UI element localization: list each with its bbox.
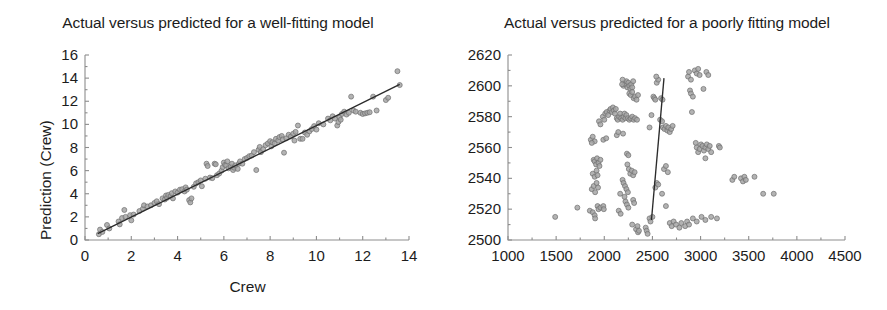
y-tick-label: 2520 — [468, 201, 501, 216]
data-point — [593, 190, 598, 195]
data-point — [314, 127, 319, 132]
data-point — [618, 191, 623, 196]
data-point — [205, 164, 210, 169]
data-point — [612, 111, 617, 116]
data-point — [300, 136, 305, 141]
data-point — [688, 77, 693, 82]
data-point — [653, 97, 658, 102]
data-point — [349, 94, 354, 99]
data-point — [743, 177, 748, 182]
data-point — [595, 173, 600, 178]
data-point — [594, 180, 599, 185]
figure-container: Actual versus predicted for a well-fitti… — [0, 0, 887, 310]
data-point — [575, 205, 580, 210]
data-point — [604, 136, 609, 141]
scatter-points — [553, 66, 777, 236]
data-point — [602, 117, 607, 122]
data-point — [625, 162, 630, 167]
y-tick-label: 2620 — [468, 47, 501, 62]
data-point — [697, 73, 702, 78]
data-point — [663, 204, 668, 209]
y-tick-label: 12 — [61, 93, 78, 108]
data-point — [235, 166, 240, 171]
y-tick-label: 8 — [70, 140, 78, 155]
data-point — [703, 156, 708, 161]
chart-panel-poorly-fitting: Actual versus predicted for a poorly fit… — [443, 0, 887, 310]
data-point — [654, 74, 659, 79]
data-point — [694, 219, 699, 224]
data-point — [677, 225, 682, 230]
y-tick-label: 10 — [61, 116, 78, 131]
regression-line — [98, 84, 400, 233]
data-point — [251, 150, 256, 155]
data-point — [696, 66, 701, 71]
data-point — [338, 117, 343, 122]
y-tick-label: 0 — [70, 232, 78, 247]
data-point — [649, 113, 654, 118]
axis-spine — [508, 55, 845, 240]
y-tick-label: 2560 — [468, 140, 501, 155]
data-point — [647, 125, 652, 130]
data-point — [648, 219, 653, 224]
data-point — [598, 122, 603, 127]
data-point — [613, 106, 618, 111]
y-tick-label: 2500 — [468, 232, 501, 247]
data-point — [771, 191, 776, 196]
data-point — [660, 191, 665, 196]
data-point — [630, 222, 635, 227]
data-point — [636, 228, 641, 233]
data-point — [632, 201, 637, 206]
data-point — [687, 222, 692, 227]
y-tick-label: 16 — [61, 47, 78, 62]
data-point — [665, 170, 670, 175]
data-point — [634, 97, 639, 102]
data-point — [635, 93, 640, 98]
y-tick-label: 2 — [70, 209, 78, 224]
data-point — [225, 159, 230, 164]
data-point — [625, 190, 630, 195]
data-point — [709, 214, 714, 219]
y-axis-title-left: Prediction (Crew) — [37, 120, 55, 240]
data-point — [598, 157, 603, 162]
data-point — [213, 162, 218, 167]
x-axis-title-left: Crew — [85, 278, 410, 296]
data-point — [626, 153, 631, 158]
data-point — [703, 217, 708, 222]
data-point — [593, 216, 598, 221]
y-tick-label: 2540 — [468, 170, 501, 185]
data-point — [670, 123, 675, 128]
data-point — [645, 231, 650, 236]
data-point — [663, 164, 668, 169]
data-point — [709, 150, 714, 155]
data-point — [690, 94, 695, 99]
data-point — [618, 211, 623, 216]
data-point — [635, 224, 640, 229]
data-point — [717, 145, 722, 150]
data-point — [693, 140, 698, 145]
data-point — [601, 207, 606, 212]
data-point — [189, 196, 194, 201]
data-point — [714, 216, 719, 221]
data-point — [295, 123, 300, 128]
y-tick-label: 2580 — [468, 109, 501, 124]
chart-panel-well-fitting: Actual versus predicted for a well-fitti… — [0, 0, 443, 310]
data-point — [589, 140, 594, 145]
x-tick-label: 14 — [379, 248, 439, 263]
data-point — [292, 138, 297, 143]
data-point — [122, 207, 127, 212]
data-point — [282, 150, 287, 155]
data-point — [199, 184, 204, 189]
data-point — [616, 130, 621, 135]
data-point — [597, 164, 602, 169]
data-point — [656, 182, 661, 187]
y-tick-label: 14 — [61, 70, 78, 85]
y-tick-label: 6 — [70, 163, 78, 178]
x-tick-label: 4500 — [815, 248, 875, 263]
data-point — [630, 90, 635, 95]
data-point — [621, 131, 626, 136]
data-point — [707, 143, 712, 148]
data-point — [620, 82, 625, 87]
data-point — [367, 110, 372, 115]
data-point — [254, 168, 259, 173]
data-point — [386, 95, 391, 100]
